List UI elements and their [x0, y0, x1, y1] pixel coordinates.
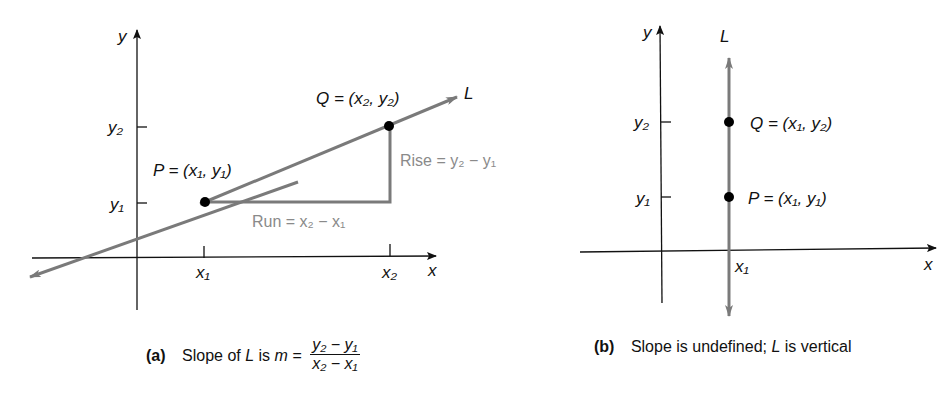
caption-b-tag: (b) — [594, 338, 614, 355]
tick-y1: y₁ — [109, 195, 124, 214]
tick-y2-b: y₂ — [633, 113, 650, 132]
caption-b: (b) Slope is undefined; L is vertical — [594, 338, 852, 356]
y-axis-b — [660, 26, 662, 303]
y-axis-label-b: y — [642, 23, 653, 42]
panel-b-graph: y x y₂ y₁ x₁ L Q = (x₁, y₂) P = (x₁, y₁) — [580, 23, 936, 316]
caption-a: (a) Slope of L is m = y₂ − y₁ x₂ − x₁ — [146, 338, 360, 375]
slope-fraction: y₂ − y₁ x₂ − x₁ — [310, 336, 359, 373]
y-axis-label: y — [117, 27, 128, 46]
tick-y1-b: y₁ — [635, 189, 650, 208]
point-Q-b — [724, 117, 734, 127]
run-label: Run = x₂ − x₁ — [252, 213, 345, 230]
point-P-label: P = (x₁, y₁) — [153, 161, 232, 180]
point-Q-label: Q = (x₂, y₂) — [316, 89, 399, 108]
point-Q-label-b: Q = (x₁, y₂) — [750, 114, 832, 133]
x-axis-b — [580, 248, 936, 252]
tick-y2: y₂ — [107, 118, 124, 137]
tick-x1: x₁ — [195, 263, 210, 282]
rise-label: Rise = y₂ − y₁ — [400, 152, 496, 169]
tick-x1-b: x₁ — [734, 257, 749, 276]
point-P-b — [724, 192, 734, 202]
caption-a-tag: (a) — [146, 347, 166, 364]
panel-a-graph: y x y₂ y₁ x₁ x₂ L P = (x₁, y₁) Q = (x₂, … — [30, 27, 496, 310]
point-P-label-b: P = (x₁, y₁) — [748, 189, 827, 208]
x-axis-label-b: x — [923, 255, 933, 274]
point-Q — [384, 121, 394, 131]
line-L-upper — [200, 97, 457, 204]
line-label-L-b: L — [720, 27, 729, 46]
point-P — [200, 197, 210, 207]
line-label-L: L — [464, 84, 473, 103]
x-axis-label: x — [427, 261, 437, 280]
tick-x2: x₂ — [381, 263, 398, 282]
